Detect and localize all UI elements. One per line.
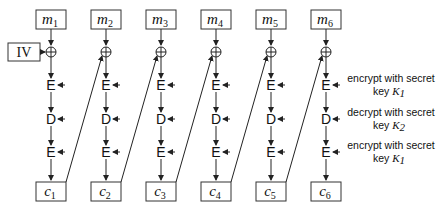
xor-icon <box>321 47 331 57</box>
svg-text:key K1: key K1 <box>373 85 405 99</box>
stage-e-label: E <box>211 144 220 160</box>
column-4: m4EDEc4 <box>201 10 267 201</box>
cbc-3des-diagram: m1EDEc1m2EDEc2m3EDEc3m4EDEc4m5EDEc5m6EDE… <box>0 0 444 213</box>
column-2: m2EDEc2 <box>91 10 157 201</box>
stage-d-label: D <box>266 111 276 127</box>
column-3: m3EDEc3 <box>146 10 212 201</box>
xor-icon <box>211 47 221 57</box>
stage-e-label: E <box>266 77 275 93</box>
column-6: m6EDEc6 <box>311 10 341 201</box>
svg-text:key K2: key K2 <box>373 119 406 133</box>
svg-text:key K1: key K1 <box>373 152 405 166</box>
svg-text:decrypt with secret: decrypt with secret <box>347 106 435 118</box>
stage-e-label: E <box>101 77 110 93</box>
stage-e-label: E <box>46 144 55 160</box>
stage-d-label: D <box>101 111 111 127</box>
chain-arrow <box>121 56 157 182</box>
stage-e-label: E <box>101 144 110 160</box>
ciphertext-block-c5: c5 <box>256 182 286 201</box>
chain-arrow <box>286 56 322 182</box>
stage-e-label: E <box>156 144 165 160</box>
column-5: m5EDEc5 <box>256 10 322 201</box>
svg-text:encrypt with secret: encrypt with secret <box>347 72 435 84</box>
iv-label: IV <box>17 45 32 60</box>
xor-icon <box>266 47 276 57</box>
xor-icon <box>156 47 166 57</box>
plaintext-block-m6: m6 <box>311 10 341 29</box>
plaintext-block-m5: m5 <box>256 10 286 29</box>
chain-arrow <box>176 56 212 182</box>
ciphertext-block-c4: c4 <box>201 182 231 201</box>
stage-d-label: D <box>46 111 56 127</box>
column-1: m1EDEc1 <box>36 10 102 201</box>
stage-e-label: E <box>321 144 330 160</box>
iv-block: IV <box>8 43 45 61</box>
plaintext-block-m2: m2 <box>91 10 121 29</box>
plaintext-block-m4: m4 <box>201 10 231 29</box>
plaintext-block-m3: m3 <box>146 10 176 29</box>
xor-icon <box>46 47 56 57</box>
stage-e-label: E <box>266 144 275 160</box>
stage-d-label: D <box>321 111 331 127</box>
stage-d-label: D <box>211 111 221 127</box>
ciphertext-block-c1: c1 <box>36 182 66 201</box>
stage-note-1: encrypt with secretkey K1 <box>347 72 435 99</box>
chain-arrow <box>66 56 102 182</box>
ciphertext-block-c2: c2 <box>91 182 121 201</box>
stage-note-2: decrypt with secretkey K2 <box>347 106 435 133</box>
svg-text:encrypt with secret: encrypt with secret <box>347 139 435 151</box>
stage-e-label: E <box>46 77 55 93</box>
stage-d-label: D <box>156 111 166 127</box>
stage-e-label: E <box>211 77 220 93</box>
plaintext-block-m1: m1 <box>36 10 66 29</box>
xor-icon <box>101 47 111 57</box>
stage-e-label: E <box>321 77 330 93</box>
ciphertext-block-c3: c3 <box>146 182 176 201</box>
ciphertext-block-c6: c6 <box>311 182 341 201</box>
stage-note-3: encrypt with secretkey K1 <box>347 139 435 166</box>
chain-arrow <box>231 56 267 182</box>
stage-e-label: E <box>156 77 165 93</box>
